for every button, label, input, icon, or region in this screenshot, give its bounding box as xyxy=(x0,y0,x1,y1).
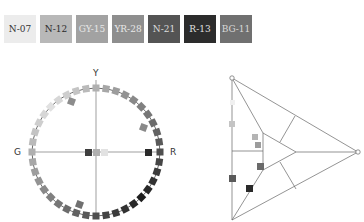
ring-marker xyxy=(155,158,163,166)
ring-marker xyxy=(34,176,43,185)
ring-marker xyxy=(143,185,153,195)
ring-marker xyxy=(72,87,81,96)
ring-marker xyxy=(31,167,40,176)
ring-marker xyxy=(54,95,64,105)
ring-marker xyxy=(62,204,71,213)
ternary-triangle xyxy=(230,76,360,220)
ring-marker xyxy=(155,138,163,146)
ring-marker xyxy=(54,199,64,209)
ring-marker xyxy=(148,118,157,127)
ring-marker xyxy=(143,110,153,120)
ring-marker xyxy=(72,208,81,217)
inner-markers xyxy=(67,97,152,209)
hue-circle: Y G R xyxy=(14,68,176,220)
ring-marker xyxy=(34,118,43,127)
ring-marker xyxy=(39,185,49,195)
ring-marker xyxy=(29,149,36,156)
ring-marker xyxy=(148,176,157,185)
ring-marker xyxy=(120,204,129,213)
ring-marker xyxy=(152,167,161,176)
ring-marker xyxy=(82,211,90,219)
ring-marker xyxy=(111,208,120,217)
ring-marker xyxy=(29,158,37,166)
ring-marker xyxy=(82,85,90,93)
ring-marker xyxy=(157,149,164,156)
ring-marker xyxy=(129,95,139,105)
ring-marker xyxy=(120,90,129,99)
diagrams: Y G R xyxy=(0,0,364,222)
ring-marker xyxy=(152,128,161,137)
label-y: Y xyxy=(92,68,99,78)
ring-marker xyxy=(102,85,110,93)
ring-marker xyxy=(93,85,100,92)
label-g: G xyxy=(14,147,21,157)
label-r: R xyxy=(170,147,176,157)
ring-marker xyxy=(39,110,49,120)
ring-marker xyxy=(31,128,40,137)
ternary-markers xyxy=(229,100,264,192)
ring-marker xyxy=(129,199,139,209)
ring-marker xyxy=(29,138,37,146)
ring-marker xyxy=(93,213,100,220)
ring-marker xyxy=(102,211,110,219)
ring-marker xyxy=(111,87,120,96)
